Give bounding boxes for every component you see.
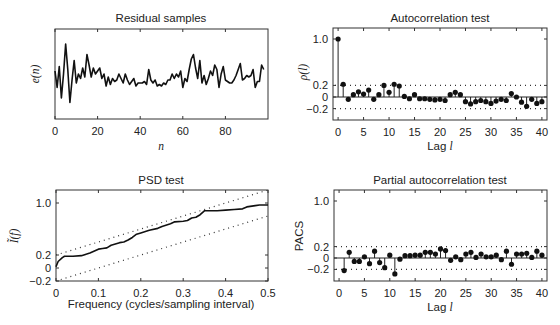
stem-marker: [377, 260, 382, 265]
x-tick-label: 10: [384, 287, 396, 299]
x-tick-label: 15: [408, 126, 420, 138]
stem-marker: [371, 97, 376, 102]
autocorrelation-stems: 0510152025303540−0.200.21.0: [306, 28, 548, 138]
stem-marker: [524, 104, 529, 109]
x-tick-label: 20: [91, 125, 103, 137]
y-tick-label: 1.0: [36, 197, 51, 209]
stem-marker: [443, 248, 448, 253]
stem-marker: [483, 99, 488, 104]
y-tick-label: −0.2: [307, 263, 329, 275]
x-tick-label: 35: [510, 126, 522, 138]
autocorrelation-title: Autocorrelation test: [390, 12, 490, 24]
x-tick-label: 25: [459, 126, 471, 138]
psd-title: PSD test: [138, 174, 184, 186]
stem-marker: [509, 262, 514, 267]
stem-marker: [484, 254, 489, 259]
stem-marker: [407, 96, 412, 101]
stem-marker: [417, 96, 422, 101]
stem-marker: [448, 92, 453, 97]
x-tick-label: 40: [134, 125, 146, 137]
stem-marker: [499, 257, 504, 262]
stem-marker: [397, 257, 402, 262]
stem-marker: [534, 249, 539, 254]
psd-xlabel: Frequency (cycles/sampling interval): [68, 298, 255, 310]
stem-marker: [437, 97, 442, 102]
stem-marker: [352, 259, 357, 264]
stem-marker: [448, 258, 453, 263]
stem-marker: [392, 82, 397, 87]
x-tick-label: 60: [177, 125, 189, 137]
stem-marker: [361, 92, 366, 97]
x-tick-label: 0: [53, 287, 59, 299]
stem-marker: [351, 92, 356, 97]
x-tick-label: 10: [383, 126, 395, 138]
residual-line: [55, 44, 264, 103]
x-tick-label: 25: [460, 287, 472, 299]
stem-marker: [438, 246, 443, 251]
y-tick-label: 0.2: [314, 241, 329, 253]
stem-marker: [458, 92, 463, 97]
stem-marker: [381, 83, 386, 88]
autocorrelation-panel: Autocorrelation test 0510152025303540−0.…: [297, 12, 548, 152]
x-tick-label: 35: [510, 287, 522, 299]
x-tick-label: 15: [409, 287, 421, 299]
stem-marker: [335, 36, 340, 41]
x-tick-label: 0: [335, 126, 341, 138]
x-tick-label: 0.5: [260, 287, 275, 299]
stem-marker: [514, 94, 519, 99]
y-tick-label: 1.0: [313, 33, 328, 45]
y-tick-label: 0: [322, 91, 328, 103]
stem-marker: [539, 253, 544, 258]
stem-marker: [539, 99, 544, 104]
stem-marker: [376, 92, 381, 97]
x-tick-label: 0: [336, 287, 342, 299]
y-tick-label: 0.2: [36, 249, 51, 261]
stem-marker: [366, 87, 371, 92]
stem-marker: [422, 96, 427, 101]
x-tick-label: 30: [485, 287, 497, 299]
stem-marker: [432, 97, 437, 102]
stem-marker: [524, 251, 529, 256]
stem-marker: [428, 250, 433, 255]
psd-cumulative-line: [56, 205, 268, 267]
y-tick-label: 0: [323, 252, 329, 264]
stem-marker: [342, 268, 347, 273]
residual-title: Residual samples: [116, 12, 207, 24]
stem-marker: [442, 98, 447, 103]
residual-xlabel: n: [158, 140, 164, 152]
stem-marker: [402, 94, 407, 99]
stem-marker: [346, 97, 351, 102]
stem-marker: [468, 250, 473, 255]
pacs-title: Partial autocorrelation test: [373, 174, 507, 186]
stem-marker: [427, 97, 432, 102]
pacs-panel: Partial autocorrelation test 05101520253…: [293, 174, 548, 313]
stem-marker: [504, 249, 509, 254]
stem-marker: [478, 251, 483, 256]
stem-marker: [423, 250, 428, 255]
stem-marker: [356, 89, 361, 94]
stem-marker: [418, 253, 423, 258]
y-tick-label: 1.0: [314, 195, 329, 207]
stem-marker: [519, 251, 524, 256]
stem-marker: [367, 261, 372, 266]
stem-marker: [341, 82, 346, 87]
autocorrelation-ylabel: ρ(l): [297, 64, 310, 82]
stem-marker: [407, 253, 412, 258]
stem-marker: [494, 253, 499, 258]
x-tick-label: 0: [52, 125, 58, 137]
y-tick-label: −0.2: [306, 103, 328, 115]
x-tick-label: 40: [536, 287, 548, 299]
psd-frame: [56, 190, 268, 281]
stem-marker: [509, 91, 514, 96]
stem-marker: [488, 101, 493, 106]
stem-marker: [529, 97, 534, 102]
x-tick-label: 40: [536, 126, 548, 138]
stem-marker: [397, 83, 402, 88]
x-tick-label: 30: [485, 126, 497, 138]
autocorrelation-frame: [333, 28, 547, 120]
stem-marker: [519, 100, 524, 105]
pacs-ylabel: PACS: [293, 220, 305, 251]
stem-marker: [489, 254, 494, 259]
y-tick-label: 0: [45, 262, 51, 274]
psd-bound-upper: [56, 190, 268, 255]
